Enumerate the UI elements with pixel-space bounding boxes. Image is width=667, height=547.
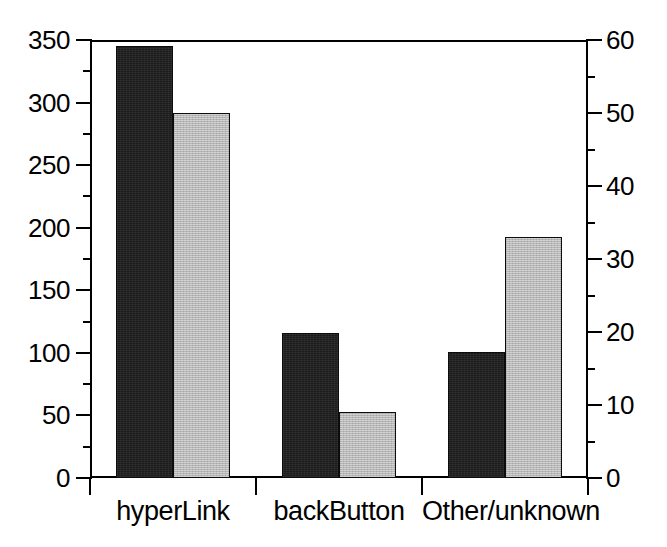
right-axis-tick-label: 50 <box>606 100 634 126</box>
right-axis-tick-label: 40 <box>606 173 634 199</box>
right-axis-tick <box>586 112 602 114</box>
left-axis-tick-label: 200 <box>28 215 70 241</box>
x-axis-category-label: Other/unknown <box>422 498 588 525</box>
bar-series-2-light-other-unknown <box>505 237 562 478</box>
bar-chart: 050100150200250300350 0102030405060 hype… <box>0 0 667 547</box>
bar-group <box>422 40 588 478</box>
right-axis-tick <box>586 331 602 333</box>
left-axis-tick-label: 50 <box>42 402 70 428</box>
x-axis-tick <box>255 478 257 495</box>
x-axis-tick <box>89 478 91 495</box>
bar-series-1-dark-other-unknown <box>448 352 505 478</box>
right-axis-tick-label: 20 <box>606 319 634 345</box>
x-axis-tick <box>587 478 589 495</box>
right-axis-tick <box>586 404 602 406</box>
bar-series-1-dark-hyperlink <box>116 46 173 478</box>
bar-group <box>90 40 256 478</box>
right-axis-tick <box>586 185 602 187</box>
right-axis-tick-label: 60 <box>606 27 634 53</box>
left-axis-tick-label: 350 <box>28 27 70 53</box>
left-axis-tick-label: 150 <box>28 277 70 303</box>
x-axis-category-label: hyperLink <box>90 498 256 525</box>
bars-layer <box>90 40 588 478</box>
left-axis-tick-label: 300 <box>28 90 70 116</box>
right-axis-tick-label: 0 <box>606 465 620 491</box>
bar-group <box>256 40 422 478</box>
left-axis-tick-label: 250 <box>28 152 70 178</box>
left-axis-tick-label: 0 <box>56 465 70 491</box>
bar-series-2-light-hyperlink <box>173 113 230 478</box>
bar-series-1-dark-backbutton <box>282 333 339 478</box>
right-axis-tick <box>586 39 602 41</box>
right-axis-tick-label: 30 <box>606 246 634 272</box>
right-axis-tick-label: 10 <box>606 392 634 418</box>
right-axis-tick <box>586 258 602 260</box>
left-axis-tick-label: 100 <box>28 340 70 366</box>
bar-series-2-light-backbutton <box>339 412 396 478</box>
x-axis-tick <box>421 478 423 495</box>
x-axis-category-label: backButton <box>256 498 422 525</box>
